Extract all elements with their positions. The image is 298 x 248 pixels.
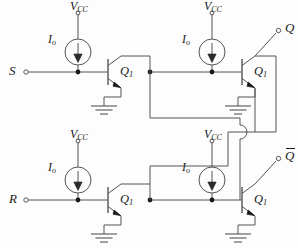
current-source-label-4: Io <box>182 161 190 175</box>
transistor-label-1: Q1 <box>120 65 133 79</box>
ground-symbol-1 <box>91 97 121 114</box>
current-source-1 <box>65 39 91 65</box>
ground-symbol-3 <box>91 225 121 242</box>
current-source-label-2: Io <box>182 33 190 47</box>
cc-a-corner <box>236 118 240 125</box>
stage-q-right <box>150 11 281 114</box>
reset-input-terminal[interactable] <box>24 198 28 202</box>
current-source-4 <box>199 167 225 193</box>
circuit-schematic-svg <box>0 0 298 248</box>
set-input-terminal[interactable] <box>24 70 28 74</box>
ground-symbol-2 <box>225 97 255 114</box>
q-output-label: Q <box>285 21 294 34</box>
reset-input-label: R <box>9 192 17 205</box>
junction-dot-reset <box>76 198 81 203</box>
stage-reset-left <box>24 139 150 242</box>
junction-dot-q <box>210 70 215 75</box>
transistor-label-3: Q1 <box>120 193 133 207</box>
current-source-label-3: Io <box>48 161 56 175</box>
vcc-label-3: VCC <box>70 128 88 142</box>
vcc-label-4: VCC <box>204 128 222 142</box>
schematic-canvas: VCC VCC VCC VCC Io Io Io Io Q1 Q1 Q1 Q1 … <box>0 0 298 248</box>
q-output-wire <box>255 33 276 56</box>
transistor-label-4: Q1 <box>254 193 267 207</box>
q-output-terminal[interactable] <box>276 28 280 32</box>
vcc-label-2: VCC <box>204 0 222 14</box>
cross-couple-b <box>148 88 255 202</box>
vcc-label-1: VCC <box>70 0 88 14</box>
junction-dot-qbar <box>210 198 215 203</box>
stage-qbar-right <box>150 139 281 242</box>
transistor-label-2: Q1 <box>254 65 267 79</box>
ground-symbol-4 <box>225 225 255 242</box>
cross-couple-a <box>148 56 247 200</box>
current-source-2 <box>199 39 225 65</box>
qbar-output-label: Q <box>285 149 294 162</box>
stage-set-left <box>24 11 150 114</box>
current-source-3 <box>65 167 91 193</box>
qbar-output-terminal[interactable] <box>276 156 280 160</box>
current-source-label-1: Io <box>48 33 56 47</box>
junction-dot-set <box>76 70 81 75</box>
set-input-label: S <box>9 64 16 77</box>
qbar-output-wire <box>255 161 276 184</box>
